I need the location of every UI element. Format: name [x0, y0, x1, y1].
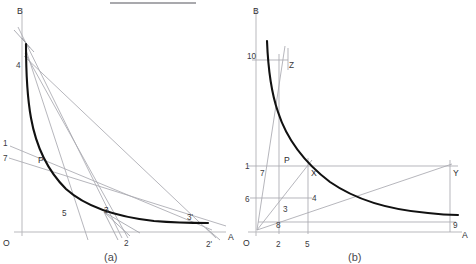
panel-b-ray-to-X — [257, 160, 312, 230]
panel-a-label-P: P — [38, 155, 44, 165]
panel-b-label-O: O — [243, 238, 250, 248]
panel-b-label-X: X — [311, 168, 317, 178]
panel-a-tick-near-4 — [14, 30, 34, 52]
figure-canvas: B 4 1 7 P 5 3 3' 2 2' O A (a) — [0, 0, 476, 264]
panel-a-label-3: 3 — [104, 206, 109, 215]
panel-b: B 10 Z 1 7 P X Y 6 3 4 8 9 O 2 5 A (b) — [243, 6, 468, 263]
panel-a-construction-line-1 — [24, 56, 216, 238]
panel-b-label-6: 6 — [245, 195, 250, 204]
panel-b-label-5: 5 — [305, 240, 310, 249]
panel-a-label-5: 5 — [62, 209, 67, 218]
panel-b-caption: (b) — [348, 251, 361, 263]
panel-a-label-7: 7 — [3, 154, 8, 163]
panel-b-label-9: 9 — [453, 221, 458, 230]
panel-b-label-Z: Z — [289, 61, 294, 70]
panel-a-label-A: A — [228, 232, 234, 242]
panel-b-label-8: 8 — [276, 221, 281, 230]
panel-b-label-A: A — [462, 230, 468, 240]
panel-b-label-7: 7 — [260, 169, 265, 178]
panel-a-label-1: 1 — [3, 139, 8, 148]
panel-b-label-4: 4 — [312, 194, 317, 203]
panel-a-tick-near-2prime — [206, 228, 220, 240]
panel-b-label-2: 2 — [276, 240, 281, 249]
panel-b-label-B: B — [253, 6, 259, 16]
panel-a: B 4 1 7 P 5 3 3' 2 2' O A (a) — [3, 6, 234, 263]
panel-a-caption: (a) — [104, 251, 117, 263]
panel-b-label-P: P — [284, 155, 290, 165]
panel-a-label-4: 4 — [16, 61, 21, 70]
panel-a-construction-line-3 — [26, 50, 88, 240]
panel-b-label-10: 10 — [247, 52, 257, 61]
panel-b-ray-to-Z — [257, 46, 285, 230]
panel-a-label-2: 2 — [124, 239, 129, 248]
panel-b-ray-to-Y — [257, 164, 452, 230]
panel-b-hyperbola-curve — [267, 41, 458, 215]
panel-a-label-B: B — [17, 6, 23, 16]
panel-b-label-Y: Y — [453, 168, 459, 178]
figure-root: B 4 1 7 P 5 3 3' 2 2' O A (a) — [0, 0, 476, 264]
panel-a-label-3-prime: 3' — [187, 213, 194, 222]
panel-b-label-3: 3 — [283, 205, 288, 214]
panel-a-label-O: O — [3, 238, 10, 248]
panel-a-construction-line-6 — [9, 158, 226, 226]
panel-b-label-1: 1 — [245, 162, 250, 171]
panel-a-label-2-prime: 2' — [206, 240, 213, 249]
